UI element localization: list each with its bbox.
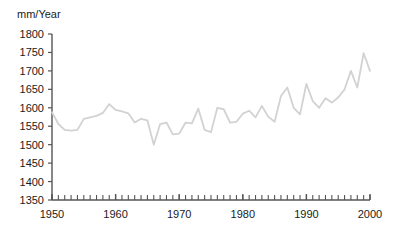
x-tick-label: 1970 [167, 208, 191, 220]
precipitation-data-line [52, 53, 370, 144]
x-axis-minor-tick-marks [52, 195, 370, 200]
x-tick-label: 1950 [40, 208, 64, 220]
y-tick-label: 1500 [20, 139, 44, 151]
x-tick-label: 1960 [103, 208, 127, 220]
x-tick-label: 2000 [358, 208, 382, 220]
y-tick-label: 1400 [20, 176, 44, 188]
x-axis-tick-labels: 195019601970198019902000 [40, 208, 382, 220]
x-tick-label: 1980 [231, 208, 255, 220]
y-tick-label: 1550 [20, 120, 44, 132]
x-tick-label: 1990 [294, 208, 318, 220]
y-axis-tick-labels: 1350140014501500155016001650170017501800 [20, 28, 44, 206]
y-tick-label: 1450 [20, 157, 44, 169]
y-tick-label: 1600 [20, 102, 44, 114]
chart-plot-area: 1350140014501500155016001650170017501800… [0, 0, 394, 235]
y-tick-label: 1350 [20, 194, 44, 206]
precipitation-line-chart: mm/Year 13501400145015001550160016501700… [0, 0, 394, 235]
y-tick-label: 1750 [20, 46, 44, 58]
y-tick-label: 1800 [20, 28, 44, 40]
y-tick-label: 1650 [20, 83, 44, 95]
y-tick-label: 1700 [20, 65, 44, 77]
